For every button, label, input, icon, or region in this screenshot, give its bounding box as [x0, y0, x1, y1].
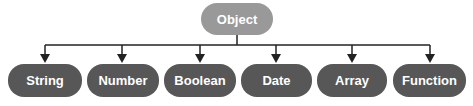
node-boolean-label: Boolean [174, 73, 225, 88]
node-number: Number [87, 64, 159, 97]
arrowhead-icon [271, 54, 281, 63]
node-boolean: Boolean [164, 64, 236, 97]
node-string-label: String [26, 73, 64, 88]
arrowhead-icon [195, 54, 205, 63]
arrowhead-icon [117, 54, 127, 63]
node-function-label: Function [402, 73, 457, 88]
arrowhead-icon [347, 54, 357, 63]
node-date: Date [241, 64, 312, 97]
arrowhead-icon [40, 54, 50, 63]
node-function: Function [393, 64, 466, 97]
node-object: Object [201, 3, 273, 35]
arrows-group [40, 45, 435, 63]
arrowhead-icon [425, 54, 435, 63]
node-number-label: Number [98, 73, 147, 88]
node-date-label: Date [262, 73, 290, 88]
node-array: Array [317, 64, 387, 97]
node-object-label: Object [217, 12, 257, 27]
node-array-label: Array [335, 73, 369, 88]
node-string: String [8, 64, 82, 97]
